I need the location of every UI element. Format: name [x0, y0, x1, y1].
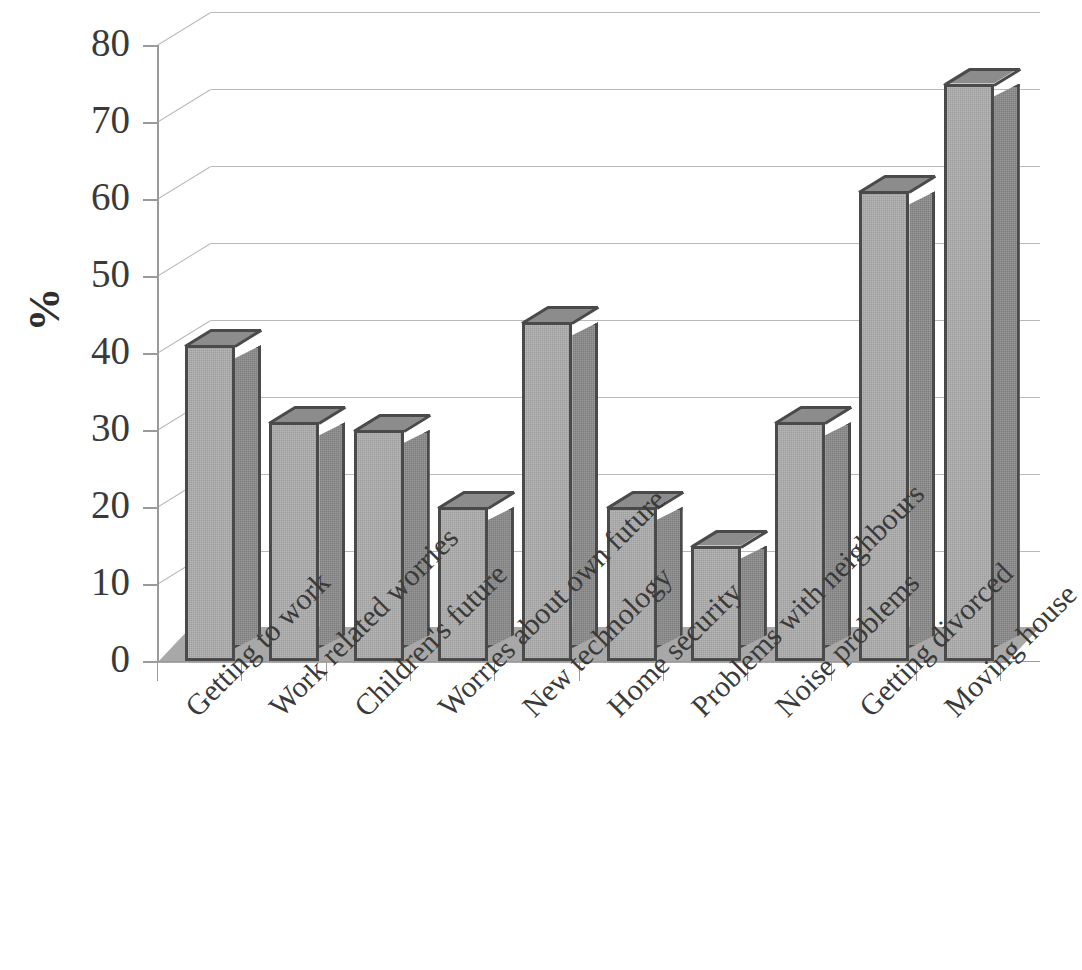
bar-front-face	[185, 345, 235, 661]
y-axis-tick	[143, 353, 159, 355]
bar-top-edge	[801, 406, 851, 409]
y-axis-tick-label: 20	[30, 485, 130, 524]
y-axis-tick	[143, 199, 159, 201]
y-axis-tick	[143, 122, 159, 124]
y-axis-tick-label: 60	[30, 177, 130, 216]
y-axis-tick-label: 70	[30, 100, 130, 139]
gridline	[211, 12, 1040, 13]
bar-top-edge	[717, 530, 767, 533]
bar-side-face	[235, 345, 261, 648]
bar-column[interactable]	[185, 345, 235, 661]
bar-top-edge	[970, 68, 1020, 71]
bar-top-edge	[380, 414, 430, 417]
y-axis-tick-label: 80	[30, 23, 130, 62]
gridline-riser	[157, 243, 212, 277]
bar-top-edge	[211, 329, 261, 332]
gridline	[211, 166, 1040, 167]
y-axis-tick-label: 40	[30, 331, 130, 370]
y-axis-tick	[143, 45, 159, 47]
y-axis-tick	[143, 584, 159, 586]
gridline-riser	[157, 89, 212, 123]
gridline-riser	[157, 12, 212, 46]
y-axis-tick-label: 50	[30, 254, 130, 293]
gridline	[211, 89, 1040, 90]
y-axis-tick	[143, 507, 159, 509]
bar-top-edge	[295, 406, 345, 409]
gridline-riser	[157, 166, 212, 200]
bar-top-edge	[548, 306, 598, 309]
y-axis-tick	[143, 276, 159, 278]
y-axis-tick-label: 0	[30, 639, 130, 678]
bar-top-edge	[885, 175, 935, 178]
bar-side-face	[319, 422, 345, 648]
y-axis-tick-label: 30	[30, 408, 130, 447]
y-axis-tick	[143, 430, 159, 432]
bar-top-edge	[464, 491, 514, 494]
y-axis-tick-label: 10	[30, 562, 130, 601]
x-axis-tick	[157, 661, 158, 681]
y-axis-title: %	[19, 288, 70, 332]
